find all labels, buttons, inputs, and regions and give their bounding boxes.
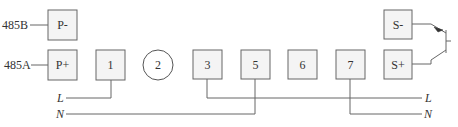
svg-text:P-: P- [57, 18, 68, 32]
svg-text:S-: S- [393, 18, 404, 32]
label-485b: 485B [2, 18, 28, 32]
svg-text:3: 3 [205, 58, 211, 72]
terminal-p-minus: P- [48, 10, 77, 40]
terminal-p-plus: P+ [48, 50, 77, 80]
label-left-n: N [55, 107, 65, 121]
wire-n-terminal-7 [350, 79, 422, 114]
terminal-1: 1 [96, 50, 125, 80]
svg-text:S+: S+ [391, 58, 405, 72]
svg-text:6: 6 [300, 58, 306, 72]
wire-n-terminal-5 [66, 79, 255, 114]
terminal-s-minus: S- [384, 10, 412, 39]
label-485a: 485A [4, 58, 31, 72]
wiring-diagram: 485B 485A P- P+ 1 2 3 5 6 7 S- [0, 0, 458, 127]
terminal-5: 5 [241, 50, 270, 79]
terminal-2: 2 [143, 50, 173, 80]
svg-text:2: 2 [155, 58, 161, 72]
svg-text:7: 7 [348, 58, 354, 72]
label-right-n: N [423, 107, 433, 121]
terminal-3: 3 [193, 50, 222, 79]
terminal-7: 7 [336, 50, 365, 79]
terminal-6: 6 [288, 50, 317, 79]
svg-text:P+: P+ [56, 58, 70, 72]
wire-l-terminal-3 [207, 79, 422, 98]
terminal-s-plus: S+ [384, 50, 412, 79]
svg-text:5: 5 [253, 58, 259, 72]
wire-l-terminal-1 [66, 80, 111, 98]
svg-text:1: 1 [108, 58, 114, 72]
label-right-l: L [424, 91, 432, 105]
label-left-l: L [56, 91, 64, 105]
transistor-icon [412, 24, 451, 64]
